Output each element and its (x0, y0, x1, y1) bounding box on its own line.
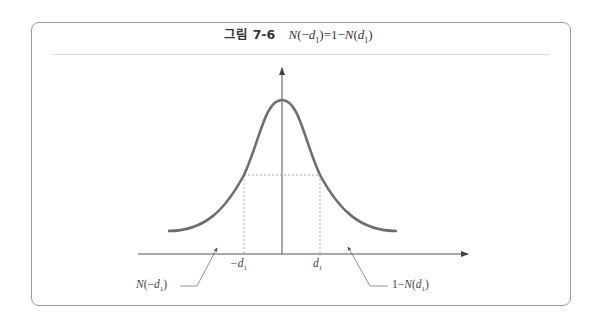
tick-label-neg-d1: −d1 (230, 257, 247, 272)
suffix: ) (425, 278, 429, 290)
leader-right (348, 247, 388, 286)
annotation-left-area: NN(−(−d1) (136, 278, 167, 293)
tick-text: −d (230, 257, 244, 269)
tick-label-d1: d1 (313, 257, 322, 272)
tick-sub: 1 (244, 264, 248, 272)
tick-sub: 1 (319, 264, 323, 272)
suffix: ) (163, 278, 167, 290)
annotation-right-area: 1−N(d1) (392, 278, 429, 293)
normal-distribution-plot (0, 0, 597, 327)
